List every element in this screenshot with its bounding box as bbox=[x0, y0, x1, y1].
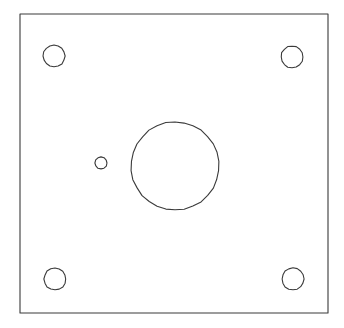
small-offset-hole bbox=[95, 157, 107, 169]
corner-hole-top-right bbox=[281, 46, 303, 67]
corner-hole-bottom-right bbox=[282, 268, 304, 290]
center-bore bbox=[131, 122, 219, 210]
geometry-layer bbox=[20, 14, 328, 313]
corner-hole-top-left bbox=[43, 45, 65, 67]
corner-hole-bottom-left bbox=[44, 268, 66, 290]
drawing-viewport bbox=[0, 0, 344, 328]
technical-drawing-canvas bbox=[0, 0, 344, 328]
